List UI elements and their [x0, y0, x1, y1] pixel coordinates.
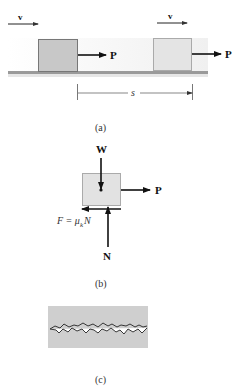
- panel-a: v v P P s (a): [8, 11, 232, 134]
- friction-label: F = μkN: [56, 215, 92, 229]
- caption-b: (b): [95, 278, 107, 290]
- velocity-label-1: v: [18, 12, 23, 22]
- block-final: [154, 39, 192, 71]
- velocity-label-2: v: [168, 11, 173, 21]
- weight-label: W: [96, 143, 107, 155]
- force-label-p-1: P: [110, 49, 117, 61]
- normal-label: N: [103, 250, 111, 262]
- caption-a: (a): [95, 122, 106, 134]
- force-label-p-2: P: [225, 48, 232, 60]
- block-initial: [39, 40, 78, 72]
- ground-shadow: [8, 74, 208, 77]
- panel-b: W P F = μkN N (b): [56, 143, 162, 290]
- center-of-mass-dot: [99, 188, 102, 191]
- displacement-label: s: [131, 87, 135, 98]
- caption-c: (c): [95, 374, 106, 386]
- applied-force-label: P: [155, 184, 162, 196]
- panel-c: (c): [48, 306, 148, 386]
- kinetic-friction-diagram: v v P P s (a) W P F = μkN: [0, 0, 242, 388]
